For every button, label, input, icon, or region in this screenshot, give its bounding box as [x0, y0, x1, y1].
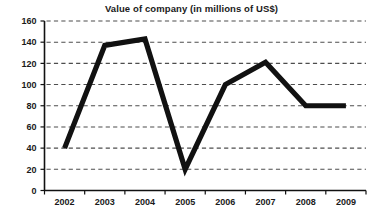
x-axis-tick-label: 2003: [95, 197, 115, 207]
x-axis-tick-label: 2002: [55, 197, 75, 207]
y-axis-tick-label: 40: [26, 143, 36, 153]
y-axis-tick-label: 100: [21, 80, 36, 90]
y-axis-tick-label: 140: [21, 37, 36, 47]
y-axis-tick-label: 80: [26, 101, 36, 111]
x-axis-tick-label: 2009: [336, 197, 356, 207]
gridlines-group: [47, 21, 367, 169]
y-axis-tick-label: 120: [21, 59, 36, 69]
y-axis-tick-label: 0: [31, 186, 36, 196]
x-axis-tick-label: 2004: [135, 197, 155, 207]
y-axis-tick-label: 20: [26, 165, 36, 175]
line-chart-plot: 020406080100120140160 200220032004200520…: [0, 0, 383, 219]
y-axis-labels-group: 020406080100120140160: [21, 16, 36, 196]
chart-container: Value of company (in millions of US$) 02…: [0, 0, 383, 219]
y-axis-tick-label: 160: [21, 16, 36, 26]
x-axis-tick-label: 2007: [256, 197, 276, 207]
x-axis-tick-label: 2008: [296, 197, 316, 207]
data-series-line: [65, 39, 346, 169]
y-axis-tick-label: 60: [26, 122, 36, 132]
x-axis-tick-label: 2005: [175, 197, 195, 207]
x-axis-tick-label: 2006: [215, 197, 235, 207]
x-axis-labels-group: 20022003200420052006200720082009: [55, 197, 356, 207]
